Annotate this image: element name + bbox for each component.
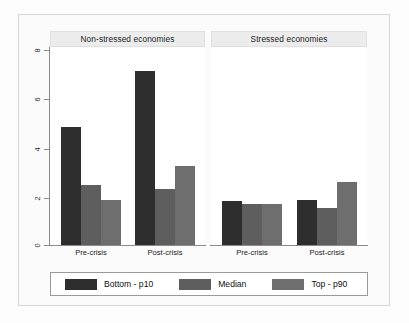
legend-swatch-median bbox=[179, 279, 211, 290]
y-tick-label-6: 6 bbox=[33, 93, 42, 107]
y-tick-mark-0 bbox=[44, 245, 49, 246]
x-label-left-postcrisis: Post-crisis bbox=[135, 248, 195, 257]
legend-item-top-p90[interactable]: Top - p90 bbox=[272, 279, 347, 290]
legend-item-bottom-p10[interactable]: Bottom - p10 bbox=[65, 279, 153, 290]
bar-right-postcrisis-median bbox=[317, 208, 337, 245]
bar-right-precrisis-median bbox=[242, 204, 262, 245]
legend-label-bottom-p10: Bottom - p10 bbox=[104, 279, 153, 289]
bar-left-precrisis-median bbox=[81, 185, 101, 245]
bar-left-postcrisis-median bbox=[155, 189, 175, 245]
legend-item-median[interactable]: Median bbox=[179, 279, 246, 290]
figure-root: Non-stressed economies Stressed economie… bbox=[0, 0, 409, 323]
panel-title-right: Stressed economies bbox=[211, 31, 367, 47]
x-axis-line-left bbox=[49, 245, 206, 246]
x-axis-line-right bbox=[210, 245, 368, 246]
legend-swatch-bottom-p10 bbox=[65, 279, 97, 290]
y-tick-label-8: 8 bbox=[33, 44, 42, 58]
bar-left-precrisis-p90 bbox=[101, 200, 121, 245]
legend-label-top-p90: Top - p90 bbox=[311, 279, 347, 289]
y-tick-label-0: 0 bbox=[33, 239, 42, 253]
panel-title-left: Non-stressed economies bbox=[50, 31, 205, 47]
panel-title-right-text: Stressed economies bbox=[251, 34, 328, 44]
legend-swatch-top-p90 bbox=[272, 279, 304, 290]
bar-right-postcrisis-p10 bbox=[297, 200, 317, 245]
plot-area: Non-stressed economies Stressed economie… bbox=[18, 14, 390, 306]
bar-left-postcrisis-p90 bbox=[175, 166, 195, 245]
y-tick-label-4: 4 bbox=[33, 142, 42, 156]
chart-legend: Bottom - p10 Median Top - p90 bbox=[50, 272, 368, 296]
bar-right-precrisis-p90 bbox=[262, 204, 282, 245]
x-label-left-precrisis: Pre-crisis bbox=[61, 248, 121, 257]
legend-label-median: Median bbox=[218, 279, 246, 289]
x-label-right-precrisis: Pre-crisis bbox=[222, 248, 282, 257]
y-tick-mark-6 bbox=[44, 99, 49, 100]
panel-title-left-text: Non-stressed economies bbox=[81, 34, 175, 44]
bar-left-postcrisis-p10 bbox=[135, 71, 155, 245]
y-tick-mark-8 bbox=[44, 50, 49, 51]
bar-right-precrisis-p10 bbox=[222, 201, 242, 245]
y-tick-mark-4 bbox=[44, 149, 49, 150]
y-tick-mark-2 bbox=[44, 198, 49, 199]
y-tick-label-2: 2 bbox=[33, 191, 42, 205]
x-label-right-postcrisis: Post-crisis bbox=[297, 248, 357, 257]
bar-right-postcrisis-p90 bbox=[337, 182, 357, 245]
bar-left-precrisis-p10 bbox=[61, 127, 81, 245]
